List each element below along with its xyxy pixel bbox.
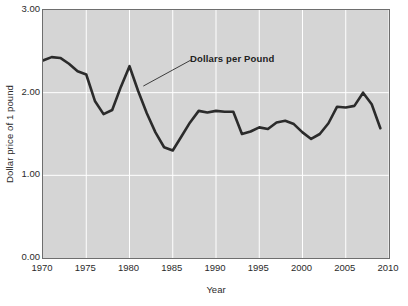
y-tick-label: 1.00	[4, 169, 40, 179]
series-annotation-label: Dollars per Pound	[190, 53, 274, 64]
y-tick-label: 0.00	[4, 252, 40, 262]
plot-area	[42, 9, 390, 259]
x-axis-tick-labels: 197019751980198519901995200020052010	[0, 262, 408, 278]
x-tick-label: 1995	[238, 262, 278, 274]
y-axis-tick-labels: 0.001.002.003.00	[0, 0, 40, 306]
chart-figure: Dollar price of 1 pound 0.001.002.003.00…	[0, 0, 408, 306]
vertical-gridlines	[86, 10, 389, 258]
x-tick-label: 1975	[65, 262, 105, 274]
annotation-leader-line	[143, 60, 191, 86]
y-tick-label: 3.00	[4, 4, 40, 14]
x-tick-label: 1985	[152, 262, 192, 274]
x-tick-label: 1970	[22, 262, 62, 274]
x-tick-label: 2000	[282, 262, 322, 274]
chart-svg	[43, 10, 389, 258]
x-tick-label: 1980	[109, 262, 149, 274]
data-series-line	[43, 57, 380, 150]
x-tick-label: 1990	[195, 262, 235, 274]
x-tick-label: 2005	[325, 262, 365, 274]
x-axis-label: Year	[42, 284, 390, 295]
y-tick-label: 2.00	[4, 87, 40, 97]
x-tick-label: 2010	[368, 262, 408, 274]
